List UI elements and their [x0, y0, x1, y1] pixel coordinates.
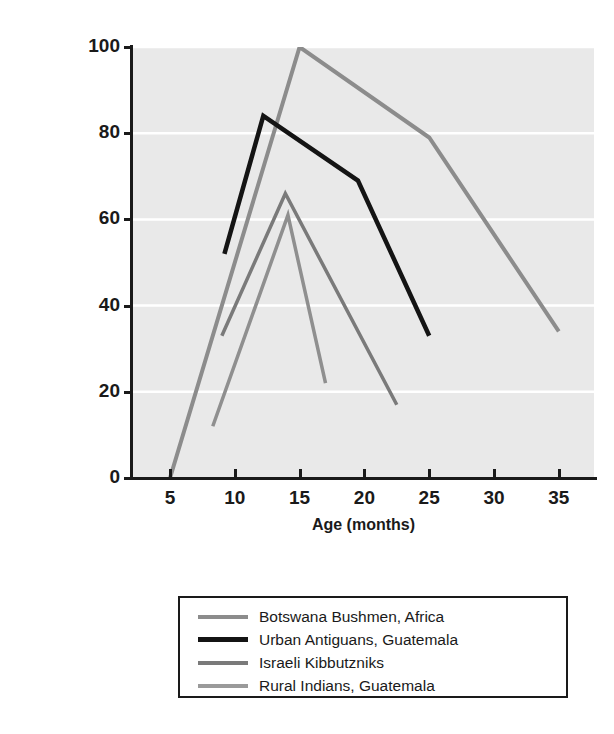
y-tick-label-40: 40 [80, 294, 120, 316]
legend-line-swatch-icon [198, 661, 248, 665]
x-tick-15 [299, 469, 302, 478]
y-tick-80 [124, 132, 133, 135]
y-tick-label-80: 80 [80, 121, 120, 143]
x-tick-35 [558, 469, 561, 478]
chart-figure: Percentage of children who cried followi… [0, 0, 614, 734]
x-tick-20 [363, 469, 366, 478]
x-tick-label-10: 10 [213, 487, 257, 509]
y-tick-label-0: 0 [80, 466, 120, 488]
y-tick-label-100: 100 [80, 35, 120, 57]
y-tick-label-20: 20 [80, 380, 120, 402]
y-tick-40 [124, 305, 133, 308]
legend-item-label: Israeli Kibbutzniks [259, 655, 384, 671]
legend-item-label: Botswana Bushmen, Africa [259, 609, 444, 625]
series-line-0 [170, 47, 559, 478]
legend-item-label: Urban Antiguans, Guatemala [259, 632, 458, 648]
x-tick-25 [428, 469, 431, 478]
legend-line-swatch-icon [198, 637, 248, 642]
x-tick-10 [234, 469, 237, 478]
x-tick-label-30: 30 [472, 487, 516, 509]
y-axis-line [130, 45, 133, 480]
x-tick-label-5: 5 [148, 487, 192, 509]
legend: Botswana Bushmen, AfricaUrban Antiguans,… [178, 596, 568, 698]
y-tick-60 [124, 218, 133, 221]
series-lines [133, 47, 594, 478]
x-tick-30 [493, 469, 496, 478]
legend-item-label: Rural Indians, Guatemala [259, 678, 435, 694]
x-tick-label-15: 15 [278, 487, 322, 509]
legend-line-swatch-icon [198, 684, 248, 688]
legend-item[interactable]: Botswana Bushmen, Africa [198, 605, 566, 628]
y-tick-label-60: 60 [80, 207, 120, 229]
legend-line-swatch-icon [198, 615, 248, 619]
legend-item[interactable]: Israeli Kibbutzniks [198, 651, 566, 674]
plot-area [133, 47, 594, 478]
legend-item[interactable]: Urban Antiguans, Guatemala [198, 628, 566, 651]
x-tick-5 [169, 469, 172, 478]
y-tick-20 [124, 391, 133, 394]
x-axis-title: Age (months) [133, 516, 594, 534]
x-tick-label-35: 35 [537, 487, 581, 509]
legend-item[interactable]: Rural Indians, Guatemala [198, 674, 566, 697]
y-tick-0 [124, 477, 133, 480]
x-tick-label-25: 25 [407, 487, 451, 509]
x-tick-label-20: 20 [342, 487, 386, 509]
y-tick-100 [124, 46, 133, 49]
